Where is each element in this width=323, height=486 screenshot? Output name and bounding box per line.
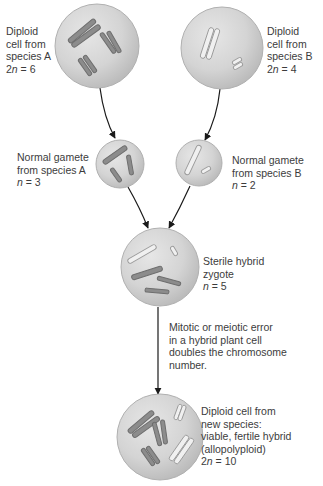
arrow-gamete-b-to-zygote (169, 186, 190, 228)
note-line: in a hybrid plant cell (169, 334, 287, 347)
label-line: species A (6, 50, 51, 63)
note-line: doubles the chromosome (169, 346, 287, 359)
label-line: (allopolyploid) (201, 443, 291, 456)
label-gamete-a: Normal gamete from species A n = 3 (17, 151, 89, 189)
label-line: species B (267, 50, 313, 63)
label-line: new species: (201, 418, 291, 431)
cell-gamete-b (176, 140, 222, 186)
ploidy-value: n = 2 (232, 179, 304, 192)
label-line: Diploid (6, 25, 51, 38)
ploidy-value: n = 3 (17, 176, 89, 189)
note-line: Mitotic or meiotic error (169, 321, 287, 334)
note-line: number. (169, 359, 287, 372)
label-hybrid-zygote: Sterile hybrid zygote n = 5 (203, 255, 264, 293)
label-new-species: Diploid cell from new species: viable, f… (201, 405, 291, 468)
cell-diploid-a (55, 4, 139, 88)
arrow-gamete-a-to-zygote (128, 187, 148, 228)
cell-hybrid-zygote (121, 228, 199, 306)
label-line: from species A (17, 164, 89, 177)
label-line: zygote (203, 268, 264, 281)
label-line: Sterile hybrid (203, 255, 264, 268)
label-diploid-b: Diploid cell from species B 2n = 4 (267, 25, 313, 75)
label-diploid-a: Diploid cell from species A 2n = 6 (6, 25, 51, 75)
ploidy-value: 2n = 4 (267, 63, 313, 76)
ploidy-value: 2n = 6 (6, 63, 51, 76)
label-line: Diploid cell from (201, 405, 291, 418)
label-line: viable, fertile hybrid (201, 430, 291, 443)
arrow-b-to-gamete-b (205, 89, 220, 140)
ploidy-value: 2n = 10 (201, 455, 291, 468)
label-gamete-b: Normal gamete from species B n = 2 (232, 154, 304, 192)
label-line: from species B (232, 167, 304, 180)
cell-gamete-a (96, 140, 144, 188)
label-line: cell from (267, 38, 313, 51)
cell-new-species (117, 394, 203, 480)
label-line: Normal gamete (17, 151, 89, 164)
label-line: Normal gamete (232, 154, 304, 167)
arrow-a-to-gamete-a (100, 88, 115, 138)
label-line: Diploid (267, 25, 313, 38)
cell-diploid-b (181, 7, 263, 89)
ploidy-value: n = 5 (203, 280, 264, 293)
process-note: Mitotic or meiotic error in a hybrid pla… (169, 321, 287, 371)
label-line: cell from (6, 38, 51, 51)
